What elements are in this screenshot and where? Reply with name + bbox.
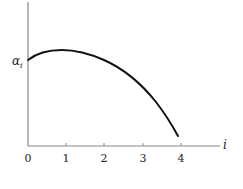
x-tick-3: 3 — [140, 152, 147, 165]
y-annotation-label: αi — [12, 55, 23, 72]
x-tick-4: 4 — [178, 152, 185, 165]
alpha-subscript: i — [20, 61, 23, 70]
x-axis-label: i — [223, 139, 227, 151]
alpha-symbol: α — [12, 54, 20, 68]
x-tick-0: 0 — [25, 152, 32, 165]
x-tick-1: 1 — [63, 152, 70, 165]
x-tick-2: 2 — [101, 152, 108, 165]
curve — [28, 50, 178, 136]
chart-canvas — [0, 0, 243, 189]
